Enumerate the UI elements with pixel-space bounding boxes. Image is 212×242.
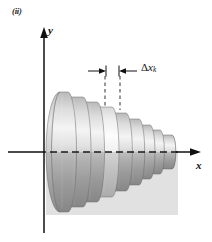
delta-x-measure-arrows: [88, 66, 137, 77]
panel-label: (ii): [12, 6, 22, 16]
disk-stack: [46, 92, 178, 215]
lower-shading: [46, 152, 178, 215]
y-axis-label: y: [48, 24, 53, 36]
delta-subscript: k: [153, 65, 156, 74]
delta-x-leader-lines: [105, 76, 120, 110]
delta-x-k-label: Δxk: [141, 61, 156, 74]
x-axis-solid-right: [176, 148, 201, 156]
solid-of-revolution-illustration: [0, 0, 212, 242]
x-axis-label: x: [196, 159, 202, 171]
figure-canvas: (ii) y x Δxk: [0, 0, 212, 242]
